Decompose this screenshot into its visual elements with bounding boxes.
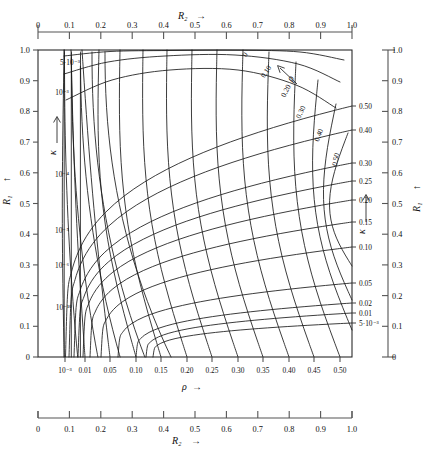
bottom-axis-arrow: → xyxy=(191,435,201,446)
top-ruler-tick-label: 1.0 xyxy=(347,21,357,30)
kappa-symbol-left: κ xyxy=(47,150,58,155)
bottom-ruler-tick-label: 0.8 xyxy=(284,425,294,434)
top-ruler-tick-label: 0.6 xyxy=(221,21,231,30)
kappa-scale-label: 0.05 xyxy=(359,279,372,288)
bottom-ruler-tick-label: 0.6 xyxy=(221,425,231,434)
right-axis-tick-label: 0.8 xyxy=(392,107,402,116)
kappa-scale-label: 0.50 xyxy=(359,102,372,111)
rho-axis-tick-label: 0.01 xyxy=(79,366,92,375)
top-ruler-tick-label: 0 xyxy=(36,21,40,30)
bottom-axis-title: R₂ xyxy=(171,435,182,446)
right-axis-title: R₁ xyxy=(411,202,422,213)
right-axis-tick-label: 0.6 xyxy=(392,169,402,178)
top-ruler-tick-label: 0.1 xyxy=(64,21,74,30)
rho-axis-tick-label: 0.25 xyxy=(206,366,219,375)
bottom-ruler-tick-label: 0 xyxy=(36,425,40,434)
kappa-scale-label: 5·10⁻³ xyxy=(359,319,380,328)
inner-kappa-label: 10⁻⁴ xyxy=(55,170,69,179)
rho-axis-tick-label: 10⁻³ xyxy=(58,366,72,375)
kappa-scale-label: 0.30 xyxy=(359,159,372,168)
nomogram-canvas: R₂ → 00.10.20.30.40.50.60.70.80.91.0 00.… xyxy=(0,0,426,456)
right-axis-tick-label: 0.3 xyxy=(392,261,402,270)
kappa-scale-label: 0.01 xyxy=(359,309,372,318)
bottom-ruler-tick-label: 0.2 xyxy=(96,425,106,434)
top-axis-title: R₂ xyxy=(177,10,188,21)
rho-axis-tick-label: 0.10 xyxy=(130,366,143,375)
left-axis-tick-label: 0.5 xyxy=(20,200,30,209)
top-axis-arrow: → xyxy=(196,10,206,21)
left-axis-tick-label: 0.7 xyxy=(20,138,30,147)
kappa-scale-label: 0.40 xyxy=(359,126,372,135)
rho-axis-tick-label: 0.30 xyxy=(232,366,245,375)
left-axis-tick-label: 0.2 xyxy=(20,292,30,301)
bottom-ruler-tick-label: 0.7 xyxy=(253,425,263,434)
right-axis-tick-label: 0.4 xyxy=(392,230,403,239)
right-axis-tick-label: 0.5 xyxy=(392,200,402,209)
rho-axis-tick-label: 0.20 xyxy=(181,366,194,375)
nomogram-figure: R₂ → 00.10.20.30.40.50.60.70.80.91.0 00.… xyxy=(0,0,426,456)
inner-kappa-label: 10⁻¹⁰ xyxy=(56,303,73,312)
inner-kappa-label: 10⁻⁶ xyxy=(55,261,69,270)
left-axis-title: R₁ xyxy=(1,195,12,206)
rho-axis-tick-label: 0.15 xyxy=(155,366,168,375)
bottom-ruler-tick-label: 0.4 xyxy=(158,425,169,434)
left-axis-tick-label: 1.0 xyxy=(20,46,30,55)
left-axis-tick-label: 0.1 xyxy=(20,322,30,331)
right-axis-tick-label: 0.1 xyxy=(392,322,402,331)
left-axis-tick-label: 0.6 xyxy=(20,169,30,178)
top-ruler-tick-label: 0.7 xyxy=(253,21,263,30)
inner-kappa-label: 10⁻⁵ xyxy=(55,226,69,235)
bottom-ruler-tick-label: 0.3 xyxy=(127,425,137,434)
kappa-scale-label: 0.02 xyxy=(359,299,372,308)
inner-kappa-label: 5·10⁻³ xyxy=(60,58,81,67)
rho-axis-tick-label: 0.45 xyxy=(308,366,321,375)
right-axis-tick-label: 0.7 xyxy=(392,138,402,147)
right-axis-tick-label: 0.9 xyxy=(392,77,402,86)
rho-axis-tick-label: 0.40 xyxy=(283,366,296,375)
left-axis-tick-label: 0.4 xyxy=(20,230,31,239)
top-ruler-tick-label: 0.9 xyxy=(315,21,325,30)
right-axis-tick-label: 0.2 xyxy=(392,292,402,301)
left-axis-arrow: ↑ xyxy=(1,177,12,182)
bottom-ruler-tick-label: 0.9 xyxy=(315,425,325,434)
inner-kappa-label: 10⁻³ xyxy=(55,88,69,97)
top-ruler-tick-label: 0.8 xyxy=(284,21,294,30)
bottom-ruler-tick-label: 1.0 xyxy=(347,425,357,434)
kappa-scale-label: 0.10 xyxy=(359,243,372,252)
rho-axis-tick-label: 0.05 xyxy=(104,366,117,375)
rho-axis-arrow: → xyxy=(192,381,202,392)
rho-axis-tick-label: 0.50 xyxy=(334,366,347,375)
left-axis-tick-label: 0 xyxy=(26,353,30,362)
left-axis-tick-label: 0.3 xyxy=(20,261,30,270)
left-axis-tick-label: 0.9 xyxy=(20,77,30,86)
bottom-ruler-tick-label: 0.5 xyxy=(190,425,200,434)
right-axis-tick-label: 0 xyxy=(392,353,396,362)
top-ruler-tick-label: 0.4 xyxy=(158,21,169,30)
rho-axis-tick-label: 0.35 xyxy=(257,366,270,375)
bottom-ruler-tick-label: 0.1 xyxy=(64,425,74,434)
rho-axis-title: ρ xyxy=(181,381,187,392)
top-ruler-tick-label: 0.5 xyxy=(190,21,200,30)
right-axis-tick-label: 1.0 xyxy=(392,46,402,55)
kappa-symbol-right: κ xyxy=(356,229,367,234)
left-axis-tick-label: 0.8 xyxy=(20,107,30,116)
top-ruler-tick-label: 0.3 xyxy=(127,21,137,30)
right-axis-arrow: ↑ xyxy=(411,185,422,190)
kappa-scale-label: 0.25 xyxy=(359,177,372,186)
top-ruler-tick-label: 0.2 xyxy=(96,21,106,30)
